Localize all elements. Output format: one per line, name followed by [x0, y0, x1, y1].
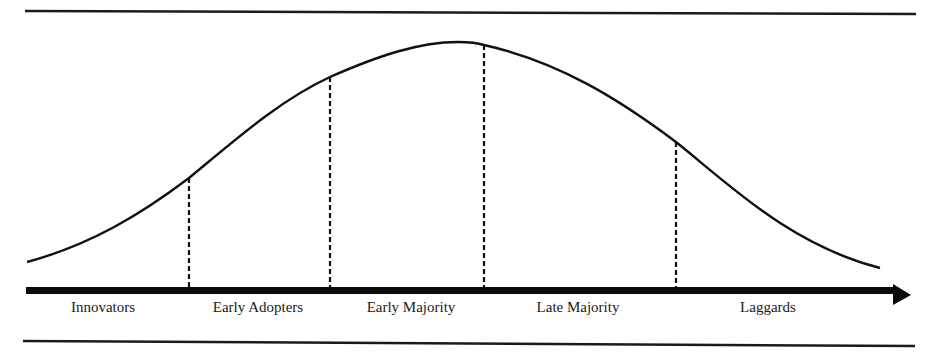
bottom-rule	[23, 341, 915, 346]
arrowhead-icon	[893, 284, 911, 305]
bell-curve	[27, 42, 880, 268]
label-late-majority: Late Majority	[537, 299, 620, 316]
label-early-majority: Early Majority	[367, 299, 456, 316]
label-innovators: Innovators	[71, 299, 135, 316]
top-rule	[25, 11, 916, 14]
label-early-adopters: Early Adopters	[213, 299, 303, 316]
label-laggards: Laggards	[740, 299, 796, 316]
